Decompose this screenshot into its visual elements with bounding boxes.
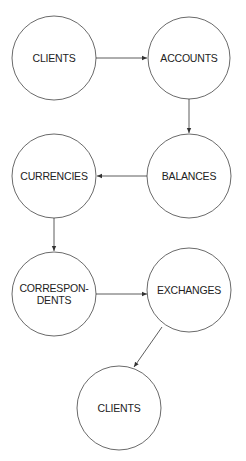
label-balances: BALANCES: [149, 170, 229, 182]
label-exchanges: EXCHANGES: [149, 284, 229, 296]
flow-diagram: [0, 0, 246, 461]
label-accounts: ACCOUNTS: [149, 52, 229, 64]
label-correspondents: CORRESPON- DENTS: [14, 282, 94, 306]
label-correspondents-line2: DENTS: [14, 294, 94, 306]
label-correspondents-line1: CORRESPON-: [14, 282, 94, 294]
label-clients-top: CLIENTS: [14, 52, 94, 64]
edge-exchanges-clients: [134, 327, 162, 367]
label-currencies: CURRENCIES: [14, 170, 94, 182]
label-clients-bottom: CLIENTS: [79, 402, 159, 414]
